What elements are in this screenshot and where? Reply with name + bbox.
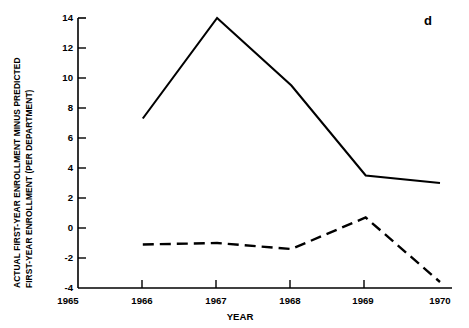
figure-panel-d: ACTUAL FIRST-YEAR ENROLLMENT MINUS PREDI… <box>0 0 469 328</box>
plot-area <box>0 0 469 328</box>
data-line-dashed <box>143 218 440 283</box>
data-line-solid <box>143 18 440 183</box>
x-tick-marks <box>142 280 364 288</box>
y-tick-marks <box>78 48 86 258</box>
